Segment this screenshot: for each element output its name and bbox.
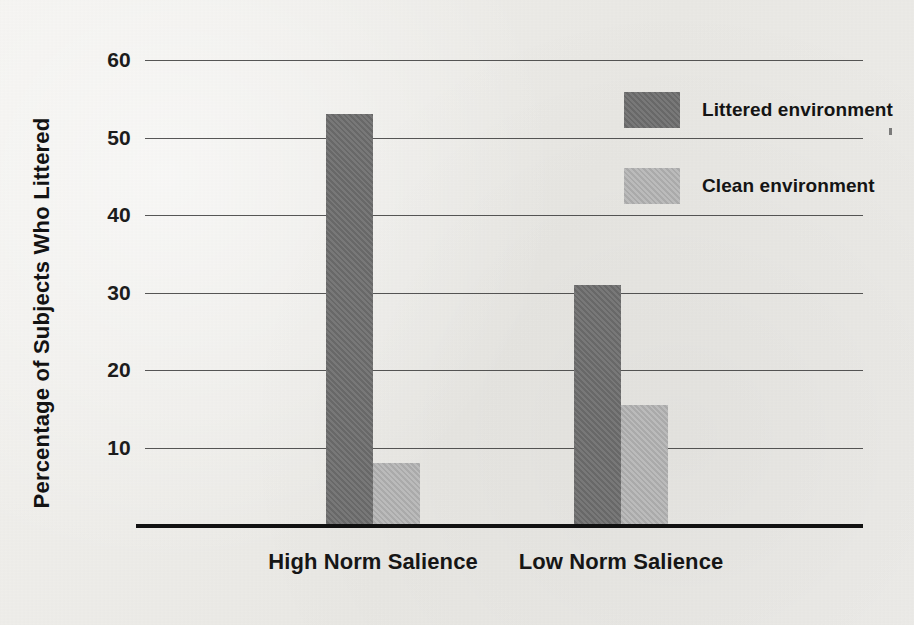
chart-figure: Percentage of Subjects Who Littered 1020… xyxy=(0,0,914,625)
y-axis-tick-label-60: 60 xyxy=(107,48,131,72)
y-axis-title-text: Percentage of Subjects Who Littered xyxy=(29,117,55,508)
x-axis-label-low-norm-salience: Low Norm Salience xyxy=(519,549,724,575)
gridline-40 xyxy=(145,215,863,216)
legend-label-littered: Littered environment xyxy=(702,99,893,121)
y-axis-tick-label-30: 30 xyxy=(107,281,131,305)
light-gray-swatch-icon xyxy=(624,168,680,204)
legend-item-littered: Littered environment xyxy=(624,92,893,128)
bar-low-norm-salience-clean-environment xyxy=(621,405,668,525)
bar-low-norm-salience-littered-environment xyxy=(574,285,621,525)
gridline-30 xyxy=(145,293,863,294)
y-axis-tick-label-10: 10 xyxy=(107,436,131,460)
bar-high-norm-salience-littered-environment xyxy=(326,114,373,525)
y-axis-tick-label-50: 50 xyxy=(107,126,131,150)
gridline-60 xyxy=(145,60,863,61)
chart-legend: Littered environment Clean environment xyxy=(624,92,893,204)
gridline-10 xyxy=(145,448,863,449)
legend-label-clean: Clean environment xyxy=(702,175,875,197)
x-axis-label-high-norm-salience: High Norm Salience xyxy=(268,549,478,575)
dark-gray-swatch-icon xyxy=(624,92,680,128)
legend-item-clean: Clean environment xyxy=(624,168,893,204)
gridline-20 xyxy=(145,370,863,371)
y-axis-title: Percentage of Subjects Who Littered xyxy=(22,0,62,625)
y-axis-tick-label-20: 20 xyxy=(107,358,131,382)
bar-high-norm-salience-clean-environment xyxy=(373,463,420,525)
x-axis-baseline xyxy=(136,524,863,528)
y-axis-tick-label-40: 40 xyxy=(107,203,131,227)
